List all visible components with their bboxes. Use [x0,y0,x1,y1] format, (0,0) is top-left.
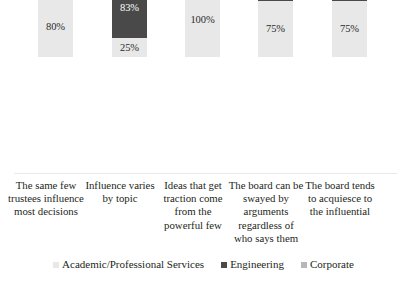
category-axis-label: The same few trustees influence most dec… [8,179,84,219]
bar-stack: 71%33%75% [258,0,293,57]
bar-segment-value-label: 100% [185,14,220,25]
legend-item[interactable]: Engineering [221,258,284,271]
category-axis-line [14,173,397,174]
chart-legend: Academic/Professional ServicesEngineerin… [0,258,407,271]
bar-segment[interactable]: 100% [185,0,220,57]
category-axis-label: The board can be swayed by arguments reg… [228,179,304,245]
legend-item-label: Corporate [310,258,354,271]
bar-stack: 29%33%100% [185,0,220,57]
plot-area: 43%33%80%The same few trustees influence… [0,0,407,176]
square-swatch-icon [221,262,227,268]
category-axis-label: The board tends to acquiesce to the infl… [302,179,378,219]
bar-segment-value-label: 83% [112,2,147,13]
bar-segment[interactable]: 75% [258,1,293,57]
legend-item[interactable]: Corporate [301,258,354,271]
bar-segment[interactable]: 75% [332,1,367,57]
bar-stack: 29%17%75% [332,0,367,57]
legend-item-label: Engineering [230,258,284,271]
bar-segment-value-label: 25% [112,42,147,53]
bar-segment[interactable]: 25% [112,38,147,57]
bar-segment[interactable]: 80% [38,0,73,57]
bar-segment-value-label: 80% [38,21,73,32]
square-swatch-icon [301,262,307,268]
bar-stack: 43%33%80% [38,0,73,57]
square-swatch-icon [53,262,59,268]
bar-segment-value-label: 75% [258,23,293,34]
bar-stack: 86%83%25% [112,0,147,57]
legend-item-label: Academic/Professional Services [62,258,204,271]
bar-segment[interactable]: 83% [112,0,147,38]
bar-segment-value-label: 75% [332,23,367,34]
category-axis-label: Ideas that get traction come from the po… [155,179,231,232]
category-axis-label: Influence varies by topic [82,179,158,205]
legend-item[interactable]: Academic/Professional Services [53,258,204,271]
stacked-bar-chart: 43%33%80%The same few trustees influence… [0,0,407,292]
